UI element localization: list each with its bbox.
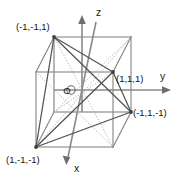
origin-label: O: [63, 85, 70, 96]
y-axis-arrowhead: [162, 86, 171, 94]
tetra-edge-5: [36, 72, 113, 147]
z-axis-label: z: [96, 6, 101, 18]
vertex-dot-front-top-right: [111, 70, 115, 74]
y-axis-label: y: [160, 70, 166, 82]
cube-tetrahedron-diagram: (-1,-1,1) (1,1,1) (-1,1,-1) (1,-1,-1) O …: [0, 0, 180, 180]
tetra-edge-1: [54, 37, 113, 72]
dotted-auxiliary-lines: [36, 37, 131, 147]
z-axis-arrowhead: [78, 15, 86, 24]
vertex-label-1-minus1-minus1: (1,-1,-1): [6, 154, 40, 165]
vertex-label-minus1-1-minus1: (-1,1,-1): [133, 107, 167, 118]
vertex-dot-top-back-left: [52, 35, 56, 39]
x-axis-arrowhead: [63, 156, 71, 165]
x-axis-label: x: [74, 162, 80, 174]
figure-container: (-1,-1,1) (1,1,1) (-1,1,-1) (1,-1,-1) O …: [0, 0, 180, 180]
vertex-label-minus1-minus1-1: (-1,-1,1): [16, 21, 50, 32]
vertex-label-1-1-1: (1,1,1): [116, 73, 143, 84]
tetra-edge-6: [36, 112, 131, 147]
vertex-dot-front-bottom-left: [34, 145, 38, 149]
